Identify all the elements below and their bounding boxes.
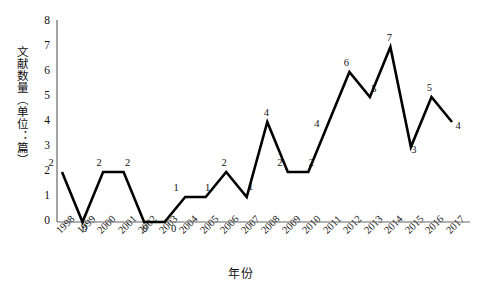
chart-container: 文献数量（单位：篇） 年份 012345678 1998199920002001… (0, 0, 484, 292)
data-series-line (62, 47, 452, 222)
plot-area (0, 0, 484, 292)
